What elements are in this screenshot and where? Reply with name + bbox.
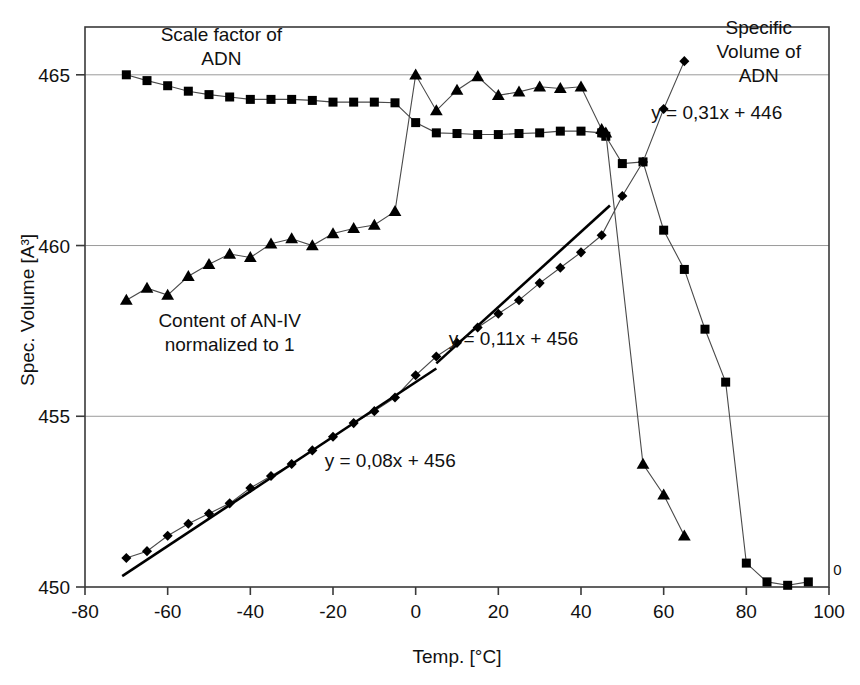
x-tick-label--40: -40 (237, 601, 264, 622)
data-point-square (742, 559, 751, 568)
data-point-square (763, 577, 772, 586)
chart-figure: -80-60-40-20020406080100 450455460465 Sc… (0, 0, 860, 685)
data-point-square (225, 93, 234, 102)
data-point-square (721, 378, 730, 387)
data-point-square (701, 325, 710, 334)
eq-008: y = 0,08x + 456 (325, 450, 456, 471)
label-specific-volume-line-1: Volume of (716, 41, 801, 62)
zero-marker-line-0: 0 (833, 561, 841, 578)
x-tick-label-0: 0 (410, 601, 421, 622)
data-point-square (287, 95, 296, 104)
x-tick-label-60: 60 (653, 601, 674, 622)
label-scale-factor-line-1: ADN (201, 48, 241, 69)
data-point-square (804, 577, 813, 586)
data-point-square (143, 76, 152, 85)
data-point-square (267, 95, 276, 104)
eq-031-line-0: y = 0,31x + 446 (651, 102, 782, 123)
data-point-square (329, 98, 338, 107)
spec-volume-vs-temperature-chart: -80-60-40-20020406080100 450455460465 Sc… (0, 0, 860, 685)
eq-031: y = 0,31x + 446 (651, 102, 782, 123)
data-point-square (432, 128, 441, 137)
label-content-an-iv-line-1: normalized to 1 (165, 334, 295, 355)
data-point-square (163, 81, 172, 90)
data-point-square (515, 129, 524, 138)
data-point-square (411, 118, 420, 127)
x-tick-label-20: 20 (488, 601, 509, 622)
data-point-square (184, 87, 193, 96)
data-point-square (577, 127, 586, 136)
x-tick-label--80: -80 (71, 601, 98, 622)
eq-011-line-0: y = 0,11x + 456 (449, 328, 579, 349)
data-point-square (205, 90, 214, 99)
x-tick-label-80: 80 (736, 601, 757, 622)
data-point-square (659, 226, 668, 235)
x-tick-label--20: -20 (319, 601, 346, 622)
y-tick-label-465: 465 (38, 65, 70, 86)
x-tick-label-40: 40 (570, 601, 591, 622)
data-point-square (535, 128, 544, 137)
x-tick-label--60: -60 (154, 601, 181, 622)
data-point-square (391, 98, 400, 107)
data-point-square (308, 96, 317, 105)
data-point-square (680, 265, 689, 274)
label-content-an-iv-line-0: Content of AN-IV (158, 310, 301, 331)
y-tick-label-450: 450 (38, 577, 70, 598)
y-tick-label-455: 455 (38, 406, 70, 427)
x-axis-title: Temp. [°C] (413, 646, 502, 667)
label-specific-volume-line-0: Specific (725, 17, 792, 38)
y-axis-title-group: Spec. Volume [A³] (17, 234, 38, 386)
data-point-square (473, 130, 482, 139)
zero-marker: 0 (833, 561, 841, 578)
label-scale-factor-line-0: Scale factor of (161, 24, 283, 45)
data-point-square (783, 581, 792, 590)
eq-011: y = 0,11x + 456 (449, 328, 579, 349)
data-point-square (556, 127, 565, 136)
y-tick-label-460: 460 (38, 236, 70, 257)
data-point-square (453, 129, 462, 138)
x-axis-title-group: Temp. [°C] (413, 646, 502, 667)
data-point-square (246, 95, 255, 104)
x-tick-label-100: 100 (813, 601, 845, 622)
data-point-square (349, 98, 358, 107)
data-point-square (494, 130, 503, 139)
data-point-square (618, 159, 627, 168)
data-point-square (370, 98, 379, 107)
label-specific-volume-line-2: ADN (739, 65, 779, 86)
y-axis-title: Spec. Volume [A³] (17, 234, 38, 386)
data-point-square (122, 70, 131, 79)
eq-008-line-0: y = 0,08x + 456 (325, 450, 456, 471)
